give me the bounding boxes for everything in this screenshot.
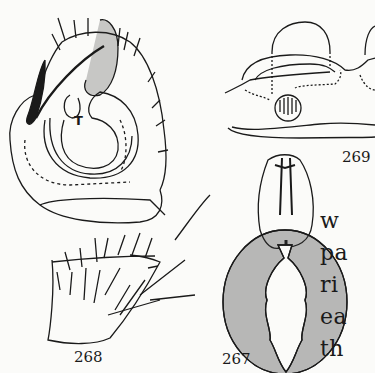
figure-268-palp-drawing <box>10 18 210 344</box>
body-text-line-3: ri <box>320 272 339 297</box>
figure-269-epigynum-drawing <box>225 22 375 138</box>
body-text-line-5: th <box>320 336 344 361</box>
figure-269-number: 269 <box>342 148 371 166</box>
tegulum-label: T <box>74 113 83 128</box>
figure-268-number: 268 <box>74 348 103 366</box>
body-text-line-1: w <box>320 208 339 233</box>
body-text-line-2: pa <box>320 240 348 265</box>
body-text-line-4: ea <box>320 304 347 329</box>
figure-267-number: 267 <box>222 350 251 368</box>
plate-illustrations <box>0 0 375 373</box>
